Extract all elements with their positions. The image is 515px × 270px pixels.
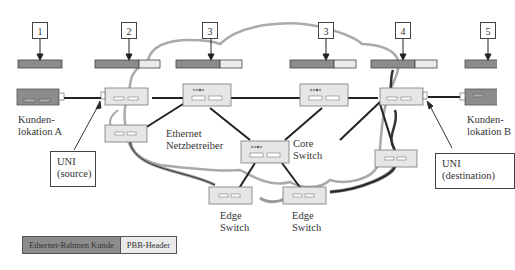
frame-4-customer <box>371 60 415 68</box>
uni-source-box: UNI (source) <box>50 151 96 187</box>
marker-arrows <box>37 38 491 60</box>
frame-3b-customer <box>290 60 334 68</box>
customer-device-b <box>460 89 497 105</box>
frame-2-customer <box>95 60 139 68</box>
core-switch-left <box>183 84 231 106</box>
frame-1 <box>18 60 62 68</box>
core-switch-center <box>241 141 289 163</box>
edge-switch-uni-destination <box>380 88 427 105</box>
marker-4: 4 <box>395 22 411 39</box>
legend-pbb-header: PBB-Header <box>121 237 176 253</box>
marker-1: 1 <box>32 22 48 39</box>
edge-switch-left-label: Edge Switch <box>220 210 249 234</box>
core-switch-right <box>300 84 348 106</box>
edge-switch-bottom-left <box>209 187 252 204</box>
marker-3a: 3 <box>202 22 218 39</box>
edge-switch-left-inner <box>105 125 147 142</box>
frame-2-pbb <box>139 60 160 68</box>
customer-location-a-label: Kunden- lokation A <box>18 114 62 138</box>
frame-4-pbb <box>415 60 437 68</box>
marker-3b: 3 <box>318 22 334 39</box>
frame-3a-pbb <box>220 60 242 68</box>
legend: Ethernet-Rahmen Kunde PBB-Header <box>22 236 177 254</box>
uni-destination-box: UNI (destination) <box>435 153 515 189</box>
edge-switch-right-label: Edge Switch <box>292 210 321 234</box>
provider-label: Ethernet Netzbetreiber <box>166 128 223 152</box>
legend-customer-frame: Ethernet-Rahmen Kunde <box>23 237 121 253</box>
frame-5 <box>465 60 497 68</box>
frame-3a-customer <box>176 60 220 68</box>
marker-5: 5 <box>480 22 496 39</box>
core-switch-label: Core Switch <box>293 138 322 162</box>
customer-device-a <box>17 89 64 105</box>
edge-switch-uni-source <box>101 88 148 105</box>
edge-switch-bottom-right <box>283 187 326 204</box>
edge-switch-right-inner <box>375 150 417 167</box>
frames <box>18 60 497 68</box>
marker-2: 2 <box>121 22 137 39</box>
frame-3b-pbb <box>334 60 356 68</box>
customer-location-b-label: Kunden- lokation B <box>467 114 511 138</box>
